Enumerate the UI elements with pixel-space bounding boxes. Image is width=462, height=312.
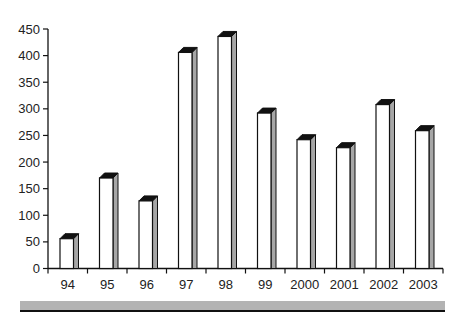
- y-tick-label: 450: [18, 22, 40, 37]
- y-tick-label: 250: [18, 128, 40, 143]
- bar-98: [218, 31, 237, 268]
- x-tick-label: 96: [140, 277, 154, 292]
- bar-2002: [376, 100, 395, 269]
- bars: [60, 31, 434, 268]
- y-tick-label: 300: [18, 101, 40, 116]
- x-tick-label: 2003: [409, 277, 438, 292]
- x-axis: 9495969798992000200120022003: [48, 269, 443, 292]
- y-tick-label: 350: [18, 75, 40, 90]
- x-tick-label: 95: [100, 277, 114, 292]
- x-tick-label: 2000: [290, 277, 319, 292]
- bar-chart: 050100150200250300350400450 949596979899…: [0, 0, 462, 312]
- x-tick-label: 98: [219, 277, 233, 292]
- bar-94: [60, 234, 79, 269]
- bar-2000: [297, 135, 316, 269]
- bar-2003: [416, 126, 435, 269]
- x-tick-label: 99: [258, 277, 272, 292]
- bottom-strip: [20, 301, 445, 312]
- bar-97: [179, 47, 198, 268]
- bar-96: [139, 196, 158, 269]
- y-tick-label: 0: [33, 261, 40, 276]
- x-tick-label: 2001: [330, 277, 359, 292]
- x-tick-label: 94: [61, 277, 75, 292]
- y-tick-label: 200: [18, 155, 40, 170]
- x-tick-label: 2002: [369, 277, 398, 292]
- bar-2001: [337, 143, 356, 269]
- bar-99: [258, 108, 277, 268]
- y-tick-label: 50: [26, 234, 40, 249]
- y-axis: 050100150200250300350400450: [18, 22, 48, 277]
- x-tick-label: 97: [179, 277, 193, 292]
- y-tick-label: 400: [18, 48, 40, 63]
- bar-95: [100, 173, 119, 268]
- y-tick-label: 150: [18, 181, 40, 196]
- y-tick-label: 100: [18, 208, 40, 223]
